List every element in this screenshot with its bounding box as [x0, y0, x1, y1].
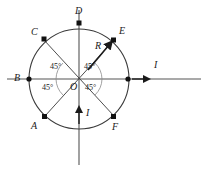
current-label-vertical: I [86, 108, 89, 118]
point-label-b: B [14, 73, 20, 83]
angle-label-upper-left: 45° [50, 63, 61, 71]
angle-arc-lower-left [56, 79, 63, 95]
point-label-d: D [75, 6, 82, 16]
point-marker-right-intersection [125, 76, 130, 81]
point-marker-e [111, 38, 116, 43]
center-label-o: O [70, 82, 77, 92]
radius-label-r: R [95, 41, 101, 51]
point-marker-b [26, 76, 31, 81]
point-label-f: F [112, 122, 118, 132]
point-marker-d [77, 21, 82, 26]
point-marker-f [111, 114, 116, 119]
point-label-c: C [31, 27, 38, 37]
angle-label-lower-left: 45° [42, 84, 53, 92]
point-marker-c [42, 37, 47, 42]
figure-container: A B C D E F O R 45° 45° 45° 45° I I [0, 0, 208, 173]
point-marker-a [42, 114, 47, 119]
point-label-e: E [119, 26, 125, 36]
angle-label-upper-right: 45° [84, 63, 95, 71]
angle-label-lower-right: 45° [85, 84, 96, 92]
point-label-a: A [31, 121, 37, 131]
current-label-horizontal: I [154, 60, 157, 70]
angle-arc-upper-right [95, 63, 102, 79]
